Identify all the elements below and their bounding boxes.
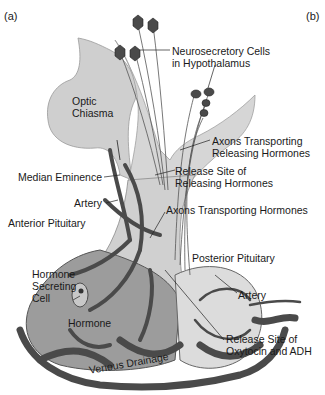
label-release-site-oxytocin: Release Site of Oxytocin and ADH [226,333,312,357]
label-release-site-releasing: Release Site of Releasing Hormones [175,165,273,189]
label-artery-1: Artery [74,197,102,209]
label-neurosecretory-cells: Neurosecretory Cells in Hypothalamus [172,45,270,69]
label-hormone-secreting-cell: Hormone Secreting Cell [32,268,76,304]
label-median-eminence: Median Eminence [18,171,102,183]
label-artery-2: Artery [238,289,266,301]
panel-label-a: (a) [4,10,17,22]
panel-label-b: (b) [306,10,319,22]
label-posterior-pituitary: Posterior Pituitary [192,252,275,264]
label-axons-releasing-hormones: Axons Transporting Releasing Hormones [212,135,310,159]
label-hormone: Hormone [68,317,111,329]
label-optic-chiasma: Optic Chiasma [72,95,113,119]
label-anterior-pituitary: Anterior Pituitary [8,217,86,229]
label-axons-transporting-hormones: Axons Transporting Hormones [166,204,308,216]
